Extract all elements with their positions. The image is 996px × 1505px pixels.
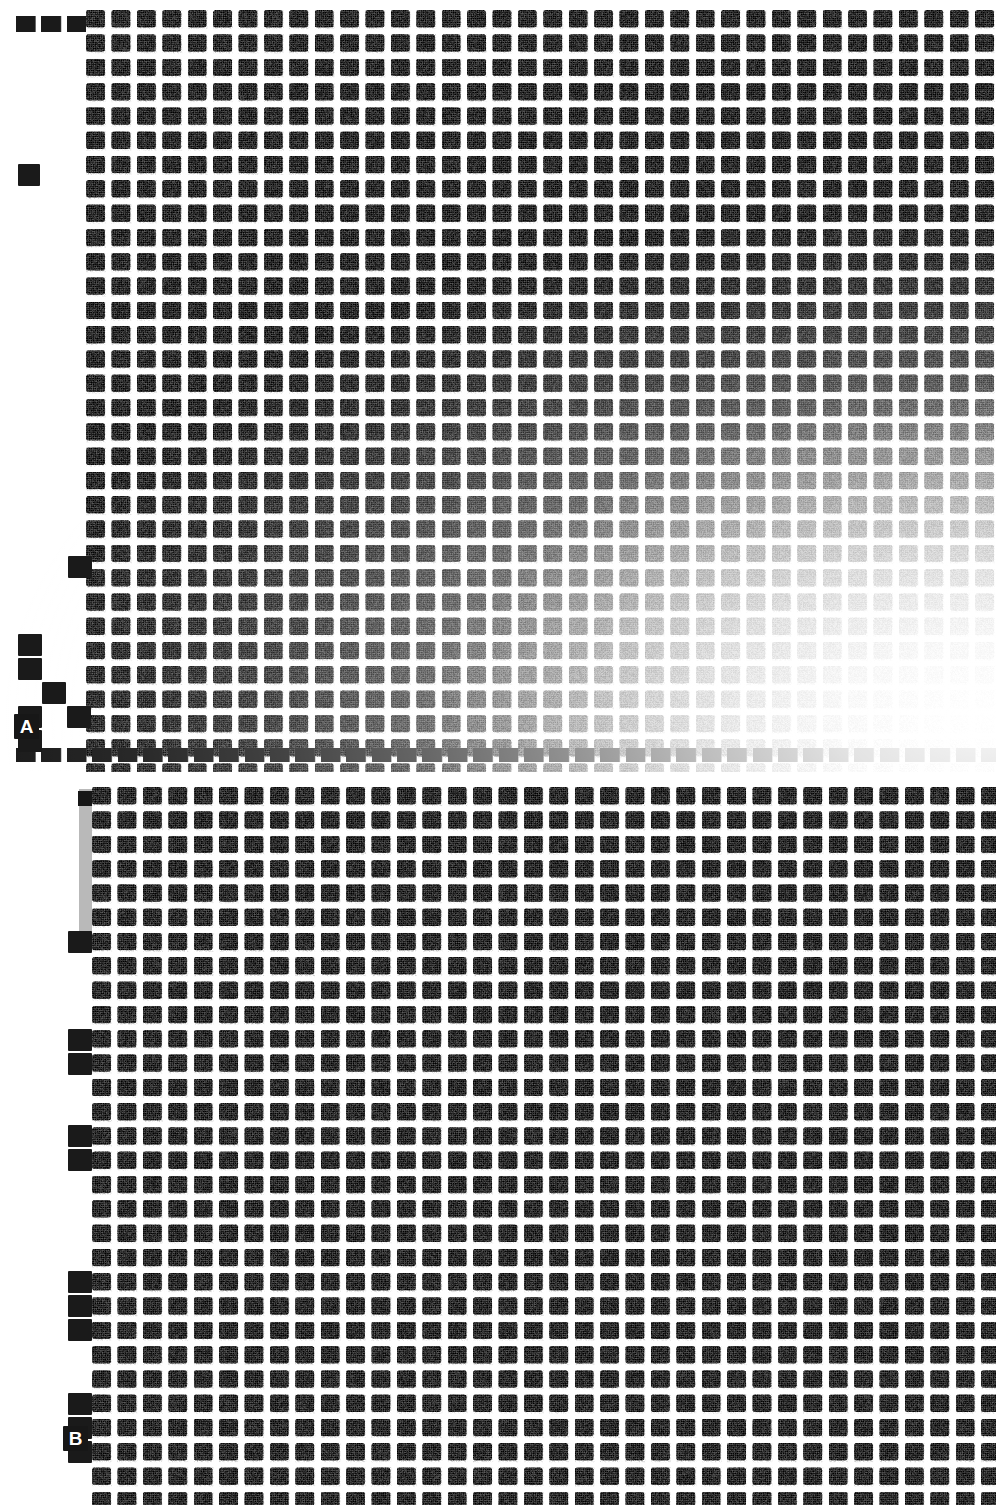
margin-marker bbox=[68, 556, 92, 578]
margin-marker bbox=[68, 1393, 92, 1415]
panel-label-a: A bbox=[14, 714, 39, 739]
margin-marker bbox=[68, 931, 92, 953]
margin-marker bbox=[68, 1271, 92, 1293]
margin-marker bbox=[68, 1149, 92, 1171]
margin-marker bbox=[67, 706, 91, 728]
margin-marker bbox=[42, 682, 66, 704]
panel-b bbox=[0, 775, 996, 1505]
panel-b-dot-array bbox=[92, 787, 996, 1505]
figure-root: A B bbox=[0, 0, 996, 1505]
margin-marker bbox=[68, 1295, 92, 1317]
dot-array-canvas bbox=[92, 787, 996, 1505]
panel-a-dot-array bbox=[86, 10, 996, 772]
margin-marker bbox=[68, 1125, 92, 1147]
margin-marker bbox=[68, 1053, 92, 1075]
panel-b-film-grain bbox=[92, 787, 996, 1505]
panel-a-film-grain bbox=[86, 10, 996, 772]
panel-label-b: B bbox=[63, 1426, 88, 1451]
panel-a: A bbox=[0, 0, 996, 772]
dot-array-canvas bbox=[86, 10, 996, 772]
margin-marker bbox=[18, 164, 40, 186]
margin-marker bbox=[18, 658, 42, 680]
margin-marker bbox=[68, 1029, 92, 1051]
panel-a-bottom-partial-row bbox=[16, 748, 996, 762]
margin-marker bbox=[18, 634, 42, 656]
margin-marker bbox=[68, 1319, 92, 1341]
